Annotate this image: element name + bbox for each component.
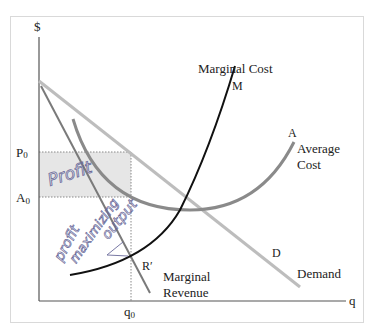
marginal-cost-point-label: M	[232, 79, 243, 93]
demand-label: Demand	[297, 266, 342, 281]
marginal-cost-label: Marginal Cost	[198, 61, 273, 76]
average-cost-point-label: A	[288, 126, 297, 140]
marginal-revenue-point-label: R′	[142, 259, 153, 273]
y-axis-label: $	[34, 19, 41, 34]
demand-point-label: D	[272, 246, 281, 260]
x-axis-label: q	[349, 293, 356, 308]
average-cost-label-line1: Average	[297, 141, 340, 156]
average-cost-label-line2: Cost	[297, 157, 321, 172]
marginal-revenue-label-line1: Marginal	[163, 269, 211, 284]
marginal-revenue-label-line2: Revenue	[163, 285, 209, 300]
monopoly-profit-diagram: $ q P0 A0 q0 Marginal Cost M A Average C…	[0, 0, 380, 334]
